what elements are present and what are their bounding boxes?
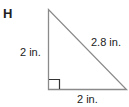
hypotenuse-label: 2.8 in. [91, 37, 121, 48]
right-angle-marker [49, 80, 60, 90]
triangle-outline [49, 10, 127, 90]
vertical-leg-label: 2 in. [20, 47, 41, 58]
horizontal-leg-label: 2 in. [77, 94, 98, 105]
